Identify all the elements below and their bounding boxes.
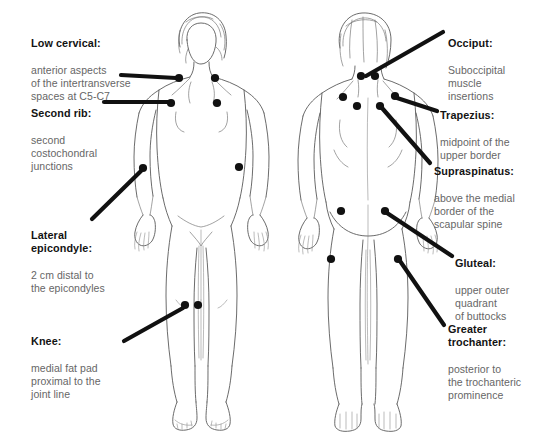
callout-second-rib-title: Second rib: (31, 107, 159, 120)
callout-knee-title: Knee: (31, 335, 171, 348)
callout-low-cervical-title: Low cervical: (31, 37, 181, 50)
tender-point-trapezius (339, 93, 347, 101)
tender-point-trapezius (391, 92, 399, 100)
leader-trapezius (397, 98, 437, 111)
callout-knee: Knee: medial fat pad proximal to the joi… (31, 322, 171, 414)
callout-second-rib: Second rib: second costochondral junctio… (31, 94, 159, 186)
tender-point-lateral-epicondyle (235, 163, 243, 171)
tender-point-greater-trochanter (327, 255, 335, 263)
tender-point-supraspinatus (376, 102, 384, 110)
tender-point-gluteal (381, 207, 389, 215)
tender-point-knee (194, 301, 202, 309)
tender-point-greater-trochanter (394, 255, 402, 263)
callout-greater-trochanter: Greater trochanter: posterior to the tro… (448, 310, 554, 416)
tender-point-second-rib (213, 99, 221, 107)
callout-lateral-epicondyle-body: 2 cm distal to the epicondyles (31, 269, 165, 295)
tender-points-diagram: .ol { fill:none; stroke:#5a5a5a; stroke-… (0, 0, 554, 437)
callout-gluteal-title: Gluteal: (455, 257, 553, 270)
tender-point-low-cervical (211, 74, 219, 82)
callout-supraspinatus-title: Supraspinatus: (434, 165, 554, 178)
callout-supraspinatus: Supraspinatus: above the medial border o… (434, 152, 554, 244)
callout-trapezius-title: Trapezius: (440, 109, 552, 122)
callout-greater-trochanter-body: posterior to the trochanteric prominence (448, 363, 554, 403)
leader-supraspinatus (382, 108, 430, 163)
tender-point-gluteal (337, 207, 345, 215)
callout-occiput-title: Occiput: (448, 37, 552, 50)
callout-supraspinatus-body: above the medial border of the scapular … (434, 192, 554, 232)
leader-greater-trochanter (400, 261, 444, 325)
callout-greater-trochanter-title: Greater trochanter: (448, 323, 554, 349)
tender-point-supraspinatus (353, 102, 361, 110)
callout-knee-body: medial fat pad proximal to the joint lin… (31, 362, 171, 402)
callout-lateral-epicondyle: Lateral epicondyle: 2 cm distal to the e… (31, 216, 165, 308)
tender-point-knee (181, 301, 189, 309)
tender-point-occiput (371, 72, 379, 80)
tender-point-occiput (357, 72, 365, 80)
callout-second-rib-body: second costochondral junctions (31, 134, 159, 174)
callout-lateral-epicondyle-title: Lateral epicondyle: (31, 229, 165, 255)
